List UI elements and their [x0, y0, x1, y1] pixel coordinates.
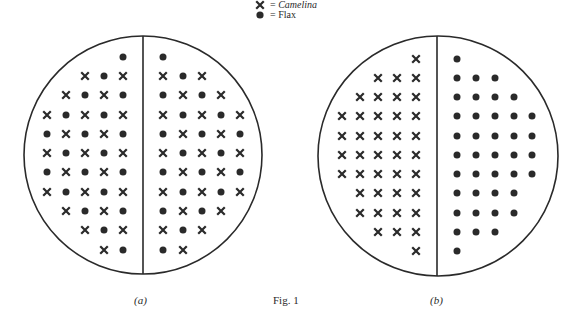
camelina-plant — [339, 171, 345, 177]
flax-plant — [454, 171, 461, 178]
flax-plant — [454, 152, 461, 159]
flax-plant — [160, 169, 167, 176]
camelina-plant — [375, 75, 381, 81]
camelina-plant — [413, 56, 419, 62]
flax-plant — [101, 189, 108, 196]
flax-plant — [120, 247, 127, 254]
camelina-plant — [339, 113, 345, 119]
flax-plant — [473, 75, 480, 82]
caption-a: (a) — [134, 293, 147, 307]
camelina-plant — [199, 150, 205, 156]
flax-plant — [492, 133, 499, 140]
flax-plant — [82, 92, 89, 99]
flax-plant — [160, 92, 167, 99]
camelina-plant — [160, 73, 166, 79]
plot-b — [318, 36, 558, 276]
flax-plant — [199, 92, 206, 99]
camelina-plant — [357, 190, 363, 196]
flax-plant — [237, 169, 244, 176]
flax-plant — [180, 112, 187, 119]
caption-figure: Fig. 1 — [273, 293, 299, 307]
flax-plant — [454, 210, 461, 217]
flax-plant — [473, 229, 480, 236]
flax-plant — [473, 171, 480, 178]
flax-plant — [44, 131, 51, 138]
camelina-plant — [394, 75, 400, 81]
camelina-plant — [218, 131, 224, 137]
camelina-plant — [101, 169, 107, 175]
planting-diagram — [0, 0, 587, 321]
flax-plant — [473, 190, 480, 197]
camelina-plant — [63, 92, 69, 98]
flax-plant — [454, 94, 461, 101]
flax-plant — [511, 210, 518, 217]
flax-plant — [492, 75, 499, 82]
camelina-plant — [413, 94, 419, 100]
flax-plant — [473, 210, 480, 217]
camelina-plant — [101, 208, 107, 214]
camelina-plant — [44, 112, 50, 118]
camelina-plant — [160, 189, 166, 195]
flax-plant — [218, 150, 225, 157]
flax-plant — [492, 210, 499, 217]
camelina-plant — [394, 94, 400, 100]
camelina-plant — [357, 171, 363, 177]
camelina-plant — [44, 150, 50, 156]
flax-plant — [511, 152, 518, 159]
camelina-plant — [357, 94, 363, 100]
camelina-plant — [394, 152, 400, 158]
flax-plant — [63, 112, 70, 119]
flax-plant — [511, 133, 518, 140]
camelina-plant — [199, 73, 205, 79]
camelina-plant — [413, 210, 419, 216]
camelina-plant — [237, 150, 243, 156]
flax-plant — [160, 247, 167, 254]
camelina-plant — [160, 227, 166, 233]
flax-plant — [511, 190, 518, 197]
camelina-plant — [82, 227, 88, 233]
camelina-plant — [180, 247, 186, 253]
camelina-plant — [63, 131, 69, 137]
camelina-plant — [101, 247, 107, 253]
camelina-plant — [82, 73, 88, 79]
caption-b: (b) — [430, 293, 443, 307]
flax-plant — [82, 131, 89, 138]
flax-plant — [63, 150, 70, 157]
flax-plant — [454, 133, 461, 140]
camelina-plant — [339, 152, 345, 158]
camelina-plant — [339, 133, 345, 139]
flax-plant — [44, 169, 51, 176]
flax-plant — [511, 94, 518, 101]
camelina-plant — [82, 112, 88, 118]
camelina-plant — [413, 113, 419, 119]
camelina-plant — [120, 227, 126, 233]
flax-plant — [101, 227, 108, 234]
flax-plant — [218, 112, 225, 119]
camelina-plant — [357, 210, 363, 216]
flax-plant — [101, 73, 108, 80]
flax-plant — [529, 171, 536, 178]
camelina-plant — [180, 131, 186, 137]
camelina-plant — [120, 112, 126, 118]
camelina-plant — [180, 92, 186, 98]
camelina-plant — [413, 75, 419, 81]
camelina-plant — [357, 152, 363, 158]
camelina-plant — [44, 189, 50, 195]
flax-plant — [82, 208, 89, 215]
flax-plant — [180, 227, 187, 234]
camelina-plant — [101, 131, 107, 137]
camelina-plant — [101, 92, 107, 98]
camelina-plant — [218, 208, 224, 214]
camelina-plant — [180, 208, 186, 214]
camelina-plant — [199, 189, 205, 195]
flax-plant — [180, 189, 187, 196]
flax-plant — [454, 113, 461, 120]
flax-plant — [454, 75, 461, 82]
camelina-plant — [237, 189, 243, 195]
camelina-plant — [218, 92, 224, 98]
flax-plant — [492, 113, 499, 120]
flax-plant — [473, 152, 480, 159]
flax-plant — [120, 169, 127, 176]
camelina-plant — [394, 133, 400, 139]
flax-plant — [180, 150, 187, 157]
